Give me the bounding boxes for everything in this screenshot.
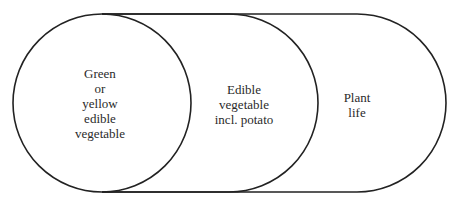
label-line: edible (75, 111, 125, 126)
label-line: life (344, 105, 371, 120)
green-yellow-vegetable-label: Green or yellow edible vegetable (75, 66, 125, 141)
label-line: incl. potato (215, 112, 274, 127)
edible-vegetable-label: Edible vegetable incl. potato (215, 82, 274, 127)
edible-vegetable-region (102, 14, 318, 192)
plant-life-label: Plant life (344, 90, 371, 120)
label-line: Green (75, 66, 125, 81)
plant-life-region (102, 14, 446, 192)
label-line: vegetable (75, 126, 125, 141)
label-line: or (75, 81, 125, 96)
label-line: yellow (75, 96, 125, 111)
label-line: Edible (215, 82, 274, 97)
label-line: Plant (344, 90, 371, 105)
label-line: vegetable (215, 97, 274, 112)
